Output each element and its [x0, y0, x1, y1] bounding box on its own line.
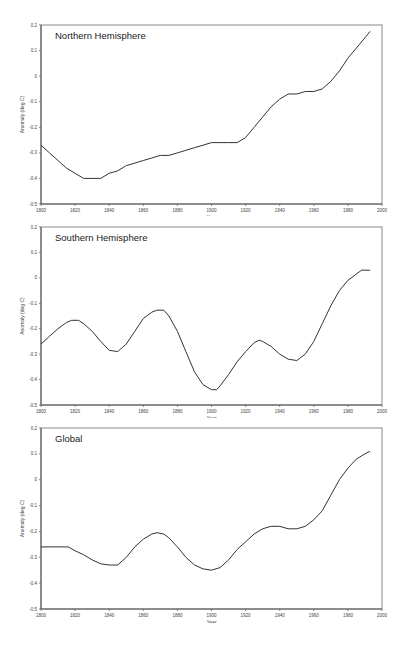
y-tick-label: -0.2	[29, 125, 37, 130]
plot-frame	[41, 25, 382, 204]
y-axis-label: Anomaly (deg C)	[19, 297, 25, 335]
y-tick-label: 0	[34, 477, 37, 482]
x-tick-label: 1960	[309, 613, 320, 618]
y-tick-label: -0.4	[29, 176, 37, 181]
data-series-line	[41, 451, 370, 570]
y-tick-label: 0	[34, 275, 37, 280]
y-tick-label: -0.3	[29, 150, 37, 155]
y-tick-label: -0.3	[29, 555, 37, 560]
x-tick-label: 1820	[70, 613, 81, 618]
x-axis-label: Year	[206, 619, 216, 623]
y-tick-label: 0.2	[31, 225, 38, 230]
y-tick-label: 0.2	[31, 23, 38, 28]
chart-svg: 0.20.10-0.1-0.2-0.3-0.4-0.51800182018401…	[0, 403, 406, 623]
x-tick-label: 1900	[206, 613, 217, 618]
y-tick-label: -0.5	[29, 607, 37, 612]
x-tick-label: 1840	[104, 613, 115, 618]
y-tick-label: -0.1	[29, 301, 37, 306]
y-tick-label: -0.2	[29, 529, 37, 534]
y-tick-label: -0.4	[29, 581, 37, 586]
y-tick-label: 0.1	[31, 451, 38, 456]
data-series-line	[41, 31, 370, 178]
y-tick-label: 0.2	[31, 426, 38, 431]
chart-svg: 0.20.10-0.1-0.2-0.3-0.4-0.51800182018401…	[0, 202, 406, 418]
x-tick-label: 1940	[275, 613, 286, 618]
y-tick-label: -0.1	[29, 99, 37, 104]
y-tick-label: -0.4	[29, 377, 37, 382]
y-tick-label: 0.1	[31, 48, 38, 53]
x-tick-label: 1980	[343, 613, 354, 618]
y-tick-label: -0.3	[29, 352, 37, 357]
chart-title: Southern Hemisphere	[55, 232, 147, 243]
chart-northern-hemisphere: 0.20.10-0.1-0.2-0.3-0.4-0.51800182018401…	[0, 0, 406, 216]
x-tick-label: 1920	[241, 613, 252, 618]
chart-svg: 0.20.10-0.1-0.2-0.3-0.4-0.51800182018401…	[0, 0, 406, 216]
chart-title: Northern Hemisphere	[55, 30, 146, 41]
chart-title: Global	[55, 433, 82, 444]
plot-frame	[41, 227, 382, 405]
y-tick-label: 0.1	[31, 250, 38, 255]
x-tick-label: 2000	[377, 613, 388, 618]
x-tick-label: 1860	[138, 613, 149, 618]
y-tick-label: 0	[34, 74, 37, 79]
chart-southern-hemisphere: 0.20.10-0.1-0.2-0.3-0.4-0.51800182018401…	[0, 202, 406, 418]
plot-frame	[41, 428, 382, 609]
y-axis-label: Anomaly (deg C)	[19, 95, 25, 133]
data-series-line	[41, 270, 370, 390]
chart-global: 0.20.10-0.1-0.2-0.3-0.4-0.51800182018401…	[0, 403, 406, 623]
y-tick-label: -0.2	[29, 326, 37, 331]
y-tick-label: -0.1	[29, 503, 37, 508]
x-tick-label: 1880	[172, 613, 183, 618]
x-tick-label: 1800	[36, 613, 47, 618]
y-axis-label: Anomaly (deg C)	[19, 499, 25, 537]
